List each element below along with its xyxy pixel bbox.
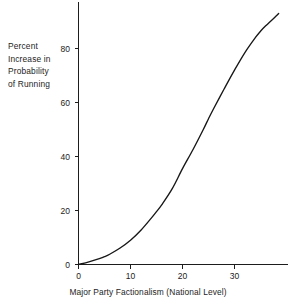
y-axis-label-line-1: Percent: [8, 40, 70, 53]
y-tick-label: 0: [65, 260, 70, 270]
x-tick-label: 20: [178, 271, 188, 281]
x-tick-label: 0: [76, 271, 81, 281]
x-axis-label: Major Party Factionalism (National Level…: [0, 287, 296, 297]
y-axis-label: Percent Increase in Probability of Runni…: [8, 40, 70, 90]
axes-group: [79, 2, 289, 265]
y-axis-label-line-4: of Running: [8, 78, 70, 91]
y-axis-label-line-2: Increase in: [8, 53, 70, 66]
y-tick-label: 40: [61, 152, 71, 162]
y-tick-label: 60: [61, 98, 71, 108]
y-tick-label: 20: [61, 206, 71, 216]
chart-figure: 020406080 0102030 Percent Increase in Pr…: [0, 0, 296, 304]
y-axis-label-line-3: Probability: [8, 65, 70, 78]
x-axis-ticks: 0102030: [76, 265, 239, 281]
x-tick-label: 30: [230, 271, 240, 281]
data-curve-line: [79, 13, 279, 264]
x-tick-label: 10: [126, 271, 136, 281]
